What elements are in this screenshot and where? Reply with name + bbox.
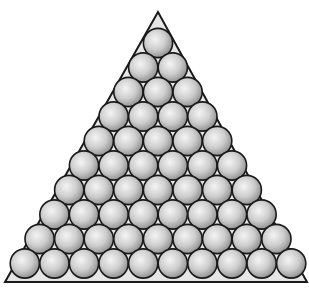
sphere-packing-figure (0, 0, 309, 291)
sphere (40, 249, 69, 278)
triangle-sphere-diagram (0, 0, 309, 291)
sphere (129, 249, 158, 278)
spheres-group (10, 28, 306, 278)
sphere (69, 249, 98, 278)
sphere (247, 249, 276, 278)
sphere (10, 249, 39, 278)
sphere (188, 249, 217, 278)
sphere (158, 249, 187, 278)
sphere (277, 249, 306, 278)
sphere (217, 249, 246, 278)
sphere (99, 249, 128, 278)
